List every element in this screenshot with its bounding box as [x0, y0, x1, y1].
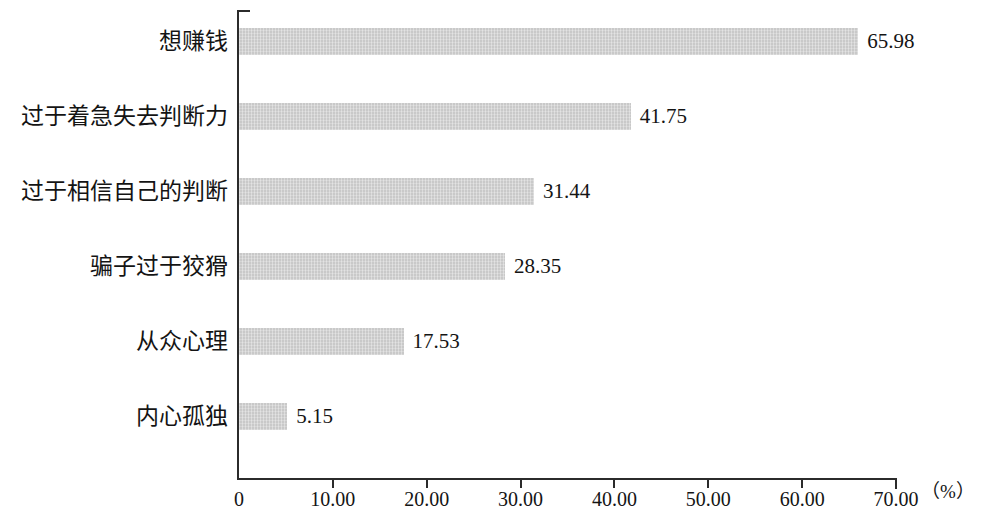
bar: [239, 103, 631, 130]
bar-row: 想赚钱65.98: [0, 28, 993, 55]
bar-row: 骗子过于狡猾28.35: [0, 253, 993, 280]
category-label: 骗子过于狡猾: [90, 253, 228, 280]
bar: [239, 328, 404, 355]
x-axis-tick-label: 50.00: [658, 487, 758, 511]
bar-row: 过于着急失去判断力41.75: [0, 103, 993, 130]
bar: [239, 253, 505, 280]
x-axis-tick-label: 10.00: [283, 487, 383, 511]
x-axis-tick-label: 40.00: [564, 487, 664, 511]
bar-value-label: 65.98: [867, 28, 914, 55]
bar-row: 过于相信自己的判断31.44: [0, 178, 993, 205]
bar: [239, 403, 287, 430]
bar-value-label: 31.44: [543, 178, 590, 205]
x-axis-tick-label: 30.00: [471, 487, 571, 511]
bar-chart: 想赚钱65.98过于着急失去判断力41.75过于相信自己的判断31.44骗子过于…: [0, 0, 993, 516]
bar: [239, 178, 534, 205]
plot-area: 想赚钱65.98过于着急失去判断力41.75过于相信自己的判断31.44骗子过于…: [0, 0, 993, 516]
category-label: 从众心理: [136, 328, 228, 355]
category-label: 内心孤独: [136, 403, 228, 430]
category-label: 过于相信自己的判断: [21, 178, 228, 205]
bar-value-label: 41.75: [640, 103, 687, 130]
category-label: 过于着急失去判断力: [21, 103, 228, 130]
bar-value-label: 17.53: [413, 328, 460, 355]
bar: [239, 28, 858, 55]
x-axis-origin-tick: [237, 468, 239, 479]
bar-value-label: 28.35: [514, 253, 561, 280]
x-axis-tick-label: 60.00: [752, 487, 852, 511]
x-axis-tick-label: 0: [189, 487, 289, 511]
y-axis-top-tick: [238, 10, 250, 12]
bar-value-label: 5.15: [296, 403, 333, 430]
bar-row: 从众心理17.53: [0, 328, 993, 355]
x-axis-spine: [237, 478, 897, 480]
x-axis-unit-label: （%）: [921, 480, 975, 504]
bar-row: 内心孤独5.15: [0, 403, 993, 430]
x-axis-tick-label: 20.00: [377, 487, 477, 511]
category-label: 想赚钱: [159, 28, 228, 55]
